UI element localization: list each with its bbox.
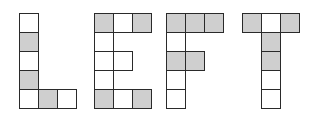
shaded-cell [204, 13, 224, 33]
empty-cell [113, 51, 133, 71]
empty-cell [94, 51, 114, 71]
empty-cell [94, 32, 114, 52]
empty-cell [113, 13, 133, 33]
empty-cell [261, 70, 281, 90]
shaded-cell [166, 51, 186, 71]
shaded-cell [166, 13, 186, 33]
empty-cell [19, 89, 39, 109]
empty-cell [261, 13, 281, 33]
shaded-cell [261, 51, 281, 71]
shaded-cell [132, 89, 152, 109]
empty-cell [57, 89, 77, 109]
shaded-cell [38, 89, 58, 109]
empty-cell [166, 89, 186, 109]
empty-cell [166, 70, 186, 90]
empty-cell [94, 70, 114, 90]
shaded-cell [280, 13, 300, 33]
shaded-cell [261, 32, 281, 52]
shaded-cell [94, 89, 114, 109]
shaded-cell [185, 51, 205, 71]
shaded-cell [185, 13, 205, 33]
empty-cell [166, 32, 186, 52]
shaded-cell [242, 13, 262, 33]
shaded-cell [132, 13, 152, 33]
shaded-cell [19, 70, 39, 90]
shaded-cell [19, 32, 39, 52]
shaded-cell [94, 13, 114, 33]
empty-cell [19, 13, 39, 33]
empty-cell [113, 89, 133, 109]
empty-cell [261, 89, 281, 109]
empty-cell [19, 51, 39, 71]
